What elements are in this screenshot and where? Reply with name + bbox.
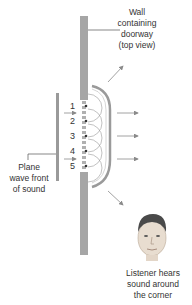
svg-text:the corner: the corner: [134, 290, 172, 300]
point-4-label: 4: [70, 146, 75, 156]
svg-text:Wall: Wall: [129, 7, 145, 17]
listener-label: Listener hears sound around the corner: [126, 268, 180, 300]
svg-text:Listener hears: Listener hears: [126, 268, 180, 278]
plane-wave-front: [56, 93, 59, 181]
wall-lower: [80, 172, 88, 255]
svg-text:(top view): (top view): [119, 40, 156, 50]
svg-text:Plane: Plane: [18, 162, 40, 172]
wall-label: Wall containing doorway (top view): [118, 7, 157, 50]
point-5-label: 5: [70, 161, 75, 171]
diffracted-wave-front: [92, 86, 110, 187]
point-2-label: 2: [70, 116, 75, 126]
svg-text:doorway: doorway: [121, 29, 154, 39]
wavelets: [88, 94, 102, 182]
point-1-label: 1: [70, 101, 75, 111]
point-3-label: 3: [70, 131, 75, 141]
diffraction-diagram: 1 2 3 4 5 Wall containing doorway (top v…: [0, 0, 192, 305]
svg-text:wave front: wave front: [8, 173, 49, 183]
listener-face-icon: [138, 214, 166, 261]
svg-text:of sound: of sound: [13, 184, 46, 194]
svg-text:containing: containing: [118, 18, 157, 28]
wall-upper: [80, 16, 88, 100]
svg-text:sound around: sound around: [127, 279, 179, 289]
plane-wave-label: Plane wave front of sound: [8, 162, 49, 194]
